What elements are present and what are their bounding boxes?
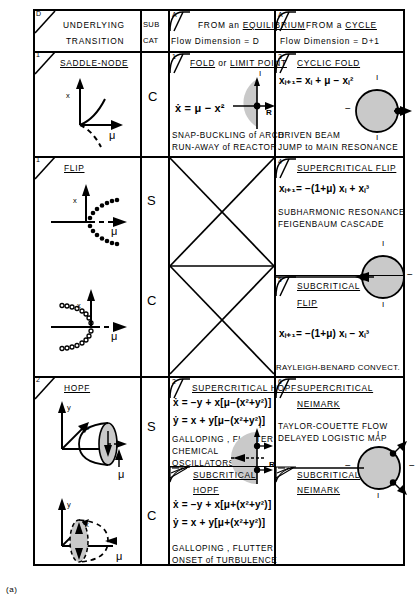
row3-axis-x-label: x — [85, 423, 89, 432]
header-flag-D: D — [35, 11, 61, 33]
row1-cycle-example-0: DRIVEN BEAM — [278, 130, 340, 141]
row3-eq-sub-title-1: SUBCRITICAL — [193, 470, 256, 480]
saddle-node-diagram: x μ — [49, 73, 141, 153]
header-col3-line2: Flow Dimension = D — [171, 36, 260, 46]
header-col3-line1-prefix: FROM an — [198, 20, 243, 30]
row1-axis-mu-label: μ — [109, 129, 115, 141]
row3-sub-axis-x-label: x — [85, 520, 89, 529]
row1-cycle-circle-diagram: I I − — [354, 83, 414, 139]
header-col4-line1: FROM a CYCLE — [306, 20, 377, 30]
row2-circle-label-top: I — [382, 239, 384, 248]
row3-eq-sub-title-2: HOPF — [193, 485, 219, 495]
row2-cycle-super-equation: xᵢ₊₁= −(1+μ) xᵢ + xᵢ³ — [279, 183, 369, 194]
row2-axis-mu-label: μ — [111, 225, 117, 237]
row1-cycle-flag-label: 3 — [278, 53, 282, 61]
row3-eq-sub-example-1: ONSET of TURBULENCE — [172, 555, 277, 566]
row1-eigenvalue-plane: I R — [223, 73, 275, 131]
row3-flag: 2 — [35, 377, 61, 399]
row3-eq-super-equation-1: ẋ = −y + x[μ−(x²+y²)] — [173, 397, 271, 408]
row3-eq-sub-hatch-flag — [170, 467, 192, 483]
row1-equilibrium-flag: 1 — [170, 53, 192, 75]
row3-sub-axis-y-label: y — [67, 500, 71, 509]
row3-circle-label-top: I — [377, 429, 379, 438]
row2-title: FLIP — [64, 163, 85, 173]
row2-cycle-sub-example-0: RAYLEIGH-BENARD CONVECT. — [276, 362, 400, 373]
row3-cycle-super-flag-label: 6 — [278, 378, 282, 386]
row3-eq-super-example-1: CHEMICAL — [172, 446, 219, 457]
header-col4-line2: Flow Dimension = D+1 — [280, 36, 380, 46]
header-col2-line1: SUB — [143, 20, 160, 29]
row1-title: SADDLE-NODE — [60, 58, 128, 68]
row2-sub-axis-mu-label: μ — [111, 330, 117, 342]
row3-circle-label-right: − — [409, 460, 415, 471]
header-col1-line2: TRANSITION — [66, 36, 124, 46]
row3-sub-axis-mu-label: μ — [116, 550, 122, 562]
row2-circle-label-bottom: I — [382, 300, 384, 309]
row1-cycle-title: CYCLIC FOLD — [297, 58, 360, 68]
row3-cycle-sub-title-2: NEIMARK — [297, 485, 340, 495]
row2-cycle-super-example-1: FEIGENBAUM CASCADE — [278, 219, 384, 230]
row3-cycle-super-example-0: TAYLOR-COUETTE FLOW — [278, 421, 388, 432]
row2-flag: 1 — [35, 157, 61, 179]
row2-subcat-C: C — [147, 293, 156, 308]
row3-circle-label-bottom: I — [377, 491, 379, 500]
header-flag-A-cycle-label: A — [278, 11, 283, 19]
row1-subcat-C: C — [148, 89, 157, 104]
row-divider-2 — [35, 376, 403, 378]
row2-cycle-sub-title-1: SUBCRITICAL — [297, 281, 360, 291]
row3-eigenvalue-plane: I R — [225, 424, 277, 494]
row1-cycle-label-left: − — [345, 103, 351, 114]
header-flag-A-equilibrium: A — [170, 11, 192, 33]
row2-cycle-sub-flag: 5 — [276, 276, 298, 298]
flip-equilibrium-crossed-out — [170, 158, 274, 376]
row3-cycle-sub-hatch-flag — [276, 467, 298, 483]
header-divider — [35, 51, 403, 53]
row1-eigen-real-label: R — [266, 108, 272, 117]
row2-sub-axis-x-label: x — [77, 301, 81, 310]
row1-cycle-equation: xᵢ₊₁= xᵢ + μ − xᵢ² — [279, 75, 354, 86]
row2-cycle-super-example-0: SUBHARMONIC RESONANCE — [278, 207, 405, 218]
header-col4-line1-keyword: CYCLE — [345, 20, 377, 30]
header-flag-A-cycle: A — [276, 11, 298, 33]
flip-super-diagram: x μ — [43, 178, 139, 256]
header-flag-D-label: D — [36, 10, 41, 18]
row1-equilibrium-equation: ẋ = μ − x² — [175, 102, 225, 114]
row1-cycle-flag: 3 — [276, 53, 298, 75]
row1-eigen-imag-label: I — [259, 69, 261, 78]
row3-axis-mu-label: μ — [118, 468, 124, 480]
row3-eq-sub-equation-1: ẋ = −y + x[μ+(x²+y²)] — [173, 499, 271, 510]
row3-subcat-C: C — [147, 508, 156, 523]
row1-equilibrium-title: FOLD or LIMIT POINT — [190, 58, 287, 68]
row3-eq-sub-equation-2: ẏ = x + y[μ+(x²+y²)] — [173, 517, 265, 528]
hopf-super-diagram: y x μ — [45, 397, 141, 489]
row3-title: HOPF — [64, 383, 90, 393]
row2-cycle-sub-title-2: FLIP — [297, 298, 318, 308]
row3-cycle-super-flag: 6 — [276, 378, 298, 400]
row1-cycle-example-1: JUMP to MAIN RESONANCE — [278, 142, 398, 153]
row2-cycle-super-flag: 4 — [276, 158, 298, 180]
row2-cycle-super-title: SUPERCRITICAL FLIP — [297, 163, 396, 173]
row1-cycle-label-bottom: I — [376, 133, 378, 142]
row3-cycle-super-title-1: SUPERCRITICAL — [297, 383, 373, 393]
row3-subcat-S: S — [147, 419, 156, 434]
row1-flag: 1 — [35, 52, 61, 74]
row2-subcat-S: S — [147, 193, 156, 208]
row3-eigen-imag-label: I — [259, 421, 261, 430]
figure-caption: (a) — [6, 585, 18, 594]
header-flag-A-equilibrium-label: A — [172, 11, 177, 19]
row3-eq-sub-example-0: GALLOPING , FLUTTER — [172, 543, 273, 554]
row1-axis-x-label: x — [66, 91, 70, 100]
row1-equilibrium-title-a: FOLD — [190, 58, 215, 68]
row2-circle-label-right: − — [407, 269, 413, 280]
row2-cycle-super-flag-label: 4 — [278, 158, 282, 166]
hopf-sub-diagram: y x μ — [45, 494, 141, 586]
flip-sub-diagram: x μ — [43, 283, 139, 363]
row2-cycle-sub-flag-label: 5 — [278, 276, 282, 284]
row1-equilibrium-example-1: RUN-AWAY of REACTOR — [172, 142, 277, 153]
header-col4-line1-prefix: FROM a — [306, 20, 345, 30]
row2-cycle-sub-equation: xᵢ₊₁= −(1+μ) xᵢ − xᵢ³ — [279, 328, 369, 339]
row3-axis-y-label: y — [67, 403, 71, 412]
row1-equilibrium-example-0: SNAP-BUCKLING of ARCH — [172, 130, 285, 141]
classification-table: D UNDERLYING TRANSITION SUB CAT A FROM a… — [33, 9, 405, 566]
row3-eq-super-flag-label: 2 — [172, 378, 176, 386]
